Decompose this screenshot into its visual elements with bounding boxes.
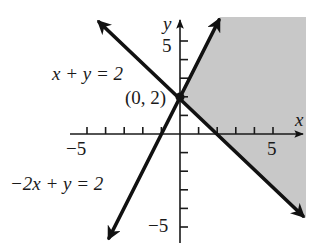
x-tick-label-neg5: −5	[66, 138, 86, 159]
y-axis-label: y	[161, 13, 172, 34]
line1-label: x + y = 2	[51, 63, 124, 84]
line2-label: −2x + y = 2	[10, 173, 104, 194]
y-tick-label-neg5: −5	[148, 215, 168, 236]
vertex-label: (0, 2)	[125, 87, 166, 109]
x-axis-label: x	[294, 109, 304, 130]
x-tick-label-5: 5	[267, 138, 277, 159]
y-tick-label-5: 5	[162, 35, 172, 56]
inequality-graph: y x 5 −5 −5 5 x + y = 2 (0, 2) −2x + y =…	[0, 0, 319, 243]
vertex-point	[176, 93, 185, 102]
